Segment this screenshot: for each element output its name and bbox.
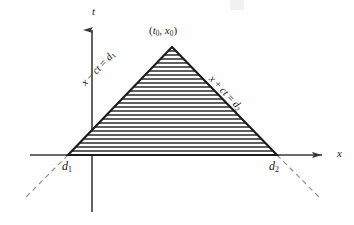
- x-axis-label: x: [337, 148, 342, 159]
- characteristic-triangle-figure: t x (t0, x0) x − ct = d1 x + ct = d2 d1 …: [0, 0, 354, 225]
- base-point-d2-label: d2: [269, 160, 279, 174]
- dashed-extension-right: [277, 155, 321, 199]
- d1-subscript: 1: [68, 165, 72, 174]
- d2-subscript: 2: [275, 165, 279, 174]
- base-point-d1-label: d1: [62, 160, 72, 174]
- apex-paren-close: ): [173, 24, 177, 36]
- apex-coordinate-label: (t0, x0): [149, 25, 177, 38]
- t-axis-label: t: [92, 6, 95, 17]
